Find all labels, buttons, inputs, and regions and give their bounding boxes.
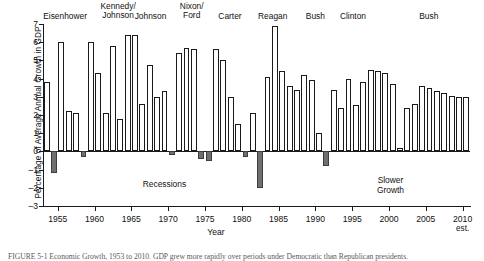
y-tick-label: –3 [28,202,38,211]
bar-growth [272,26,278,152]
x-tick [58,206,59,211]
slower-growth-annotation: Slower Growth [377,176,404,195]
y-tick [39,188,44,189]
bar-growth [397,148,403,152]
bar-growth [66,111,72,151]
y-tick-label: 2 [33,111,38,120]
y-tick-label: 0 [33,147,38,156]
x-tick-label: 1970 [159,215,178,224]
x-tick-label: 1995 [343,215,362,224]
bar-growth [154,97,160,152]
bar-growth [103,113,109,151]
administration-label: Carter [218,12,241,21]
bar-growth [191,49,197,151]
x-tick [131,206,132,211]
bar-growth [463,97,469,152]
bar-growth [125,35,131,151]
x-tick-sublabel-est: est. [456,225,469,233]
bar-growth [338,108,344,152]
bar-growth [176,53,182,151]
administration-label: Eisenhower [43,12,87,21]
y-tick-label: –1 [28,165,38,174]
bar-growth [375,71,381,151]
x-tick [168,206,169,211]
bar-growth [58,42,64,151]
bar-growth [309,80,315,151]
x-tick-label: 2005 [416,215,435,224]
bar-growth [184,48,190,152]
x-tick [205,206,206,211]
x-tick [352,206,353,211]
bar-recession [243,151,249,156]
y-tick [39,24,44,25]
administration-label: Johnson [135,12,167,21]
x-tick-label: 1965 [122,215,141,224]
bar-growth [213,49,219,151]
bar-growth [331,90,337,152]
x-tick-label: 1980 [232,215,251,224]
figure-caption: FIGURE 5-1 Economic Growth, 1953 to 2010… [8,253,478,261]
bar-growth [360,82,366,151]
x-tick-label: 1955 [48,215,67,224]
bar-growth [368,70,374,152]
x-axis-title: Year [207,227,224,237]
x-tick-label: 1960 [85,215,104,224]
bar-growth [412,104,418,151]
bar-recession [169,151,175,155]
bar-growth [162,91,168,151]
administration-label: Kennedy/ Johnson [100,2,135,20]
bar-growth [139,104,145,151]
x-tick-label: 2000 [379,215,398,224]
bar-growth [235,124,241,151]
bar-growth [301,75,307,151]
bar-growth [449,96,455,152]
bar-growth [441,93,447,151]
bar-growth [147,65,153,151]
bar-growth [279,71,285,151]
y-tick-label: –2 [28,184,38,193]
bar-growth [44,82,50,151]
bar-growth [88,42,94,151]
bar-growth [117,119,123,152]
bar-growth [346,79,352,152]
administration-label: Reagan [258,12,287,21]
y-tick [39,42,44,43]
bar-growth [228,97,234,152]
bar-recession [81,151,87,156]
x-tick [279,206,280,211]
y-tick [39,151,44,152]
bar-growth [434,91,440,151]
y-tick-label: 5 [33,56,38,65]
x-tick-label: 1975 [195,215,214,224]
bar-growth [353,105,359,151]
bar-growth [110,46,116,152]
y-tick [39,170,44,171]
x-tick-label: 1990 [306,215,325,224]
y-tick [39,206,44,207]
bar-growth [250,113,256,151]
x-tick [242,206,243,211]
bar-growth [316,133,322,151]
bar-growth [73,113,79,151]
bar-growth [456,97,462,152]
bar-growth [265,77,271,152]
x-tick [463,206,464,211]
x-tick [95,206,96,211]
administration-label: Bush [419,12,438,21]
x-tick [315,206,316,211]
y-tick-label: 7 [33,20,38,29]
bar-growth [404,108,410,152]
bar-growth [287,86,293,152]
x-tick-label: 1985 [269,215,288,224]
y-tick [39,60,44,61]
y-tick-label: 1 [33,129,38,138]
administration-label: Nixon/ Ford [180,2,204,20]
bar-recession [206,151,212,161]
bar-growth [427,88,433,152]
bar-recession [323,151,329,166]
x-tick [426,206,427,211]
plot-area: 76543210–1–2–3 1955196019651970197519801… [43,24,470,206]
y-tick-label: 6 [33,38,38,47]
x-tick-label: 2010 [453,215,472,224]
